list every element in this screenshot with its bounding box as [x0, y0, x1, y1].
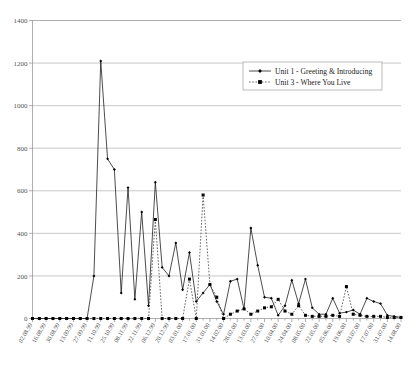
data-point	[154, 181, 157, 184]
data-point	[99, 59, 102, 62]
data-point	[290, 313, 293, 316]
series-line-1	[33, 61, 402, 319]
data-point	[72, 317, 75, 320]
data-point	[393, 316, 396, 319]
data-point	[45, 317, 48, 320]
legend-label-1[interactable]: Unit 1 - Greeting & Introducing	[275, 67, 372, 76]
x-axis-labels: 02.08.9916.08.9930.08.9913.09.9927.09.99…	[16, 322, 401, 344]
data-point	[208, 283, 211, 286]
data-point	[270, 305, 273, 308]
data-point	[345, 311, 348, 314]
data-point	[92, 317, 95, 320]
series-line-2	[33, 195, 402, 318]
data-point	[243, 307, 246, 310]
data-point	[86, 317, 89, 320]
data-point	[365, 297, 368, 300]
data-point	[249, 313, 252, 316]
data-point	[249, 227, 252, 230]
data-point	[304, 278, 307, 281]
y-tick-label: 200	[17, 273, 28, 281]
data-point	[318, 315, 321, 318]
data-point	[331, 297, 334, 300]
data-point	[359, 314, 362, 317]
data-point	[51, 317, 54, 320]
data-point	[127, 317, 130, 320]
gridlines	[33, 21, 402, 276]
data-point	[195, 317, 198, 320]
data-point	[311, 315, 314, 318]
series-group	[31, 59, 403, 320]
data-point	[140, 317, 143, 320]
data-point	[236, 310, 239, 313]
chart-legend[interactable]: Unit 1 - Greeting & IntroducingUnit 3 - …	[243, 62, 382, 90]
data-point	[338, 315, 341, 318]
data-point	[147, 317, 150, 320]
data-point	[120, 317, 123, 320]
data-point	[202, 194, 205, 197]
data-point	[181, 317, 184, 320]
chart-container: 0200400600800100012001400 02.08.9916.08.…	[0, 0, 416, 370]
y-tick-label: 1000	[14, 102, 29, 110]
data-point	[297, 304, 300, 307]
data-point	[79, 317, 82, 320]
data-point	[290, 279, 293, 282]
data-point	[379, 315, 382, 318]
data-point	[352, 313, 355, 316]
y-tick-label: 400	[17, 230, 28, 238]
y-tick-label: 1400	[14, 17, 29, 25]
data-point	[365, 315, 368, 318]
legend-marker-2	[258, 80, 262, 84]
data-point	[236, 278, 239, 281]
data-point	[263, 306, 266, 309]
data-point	[113, 317, 116, 320]
data-point	[181, 288, 184, 291]
data-point	[174, 241, 177, 244]
data-point	[222, 317, 225, 320]
y-tick-label: 600	[17, 187, 28, 195]
y-tick-label: 1200	[14, 60, 29, 68]
y-axis-ticks: 0200400600800100012001400	[14, 17, 33, 323]
data-point	[120, 292, 123, 295]
data-point	[167, 317, 170, 320]
data-point	[256, 310, 259, 313]
data-point	[154, 218, 157, 221]
data-point	[127, 186, 130, 189]
data-point	[38, 317, 41, 320]
data-point	[256, 264, 259, 267]
data-point	[188, 251, 191, 254]
data-point	[188, 278, 191, 281]
data-point	[215, 296, 218, 299]
data-point	[270, 297, 273, 300]
line-chart: 0200400600800100012001400 02.08.9916.08.…	[0, 0, 416, 370]
data-point	[65, 317, 68, 320]
data-point	[31, 317, 34, 320]
data-point	[400, 316, 403, 319]
data-point	[386, 316, 389, 319]
data-point	[140, 211, 143, 214]
data-point	[58, 317, 61, 320]
data-point	[263, 296, 266, 299]
data-point	[372, 300, 375, 303]
data-point	[92, 274, 95, 277]
y-tick-label: 800	[17, 145, 28, 153]
data-point	[304, 314, 307, 317]
data-point	[331, 314, 334, 317]
data-point	[174, 317, 177, 320]
legend-label-2[interactable]: Unit 3 - Where You Live	[275, 78, 351, 87]
data-point	[229, 313, 232, 316]
data-point	[372, 315, 375, 318]
data-point	[229, 280, 232, 283]
data-point	[133, 298, 136, 301]
data-point	[277, 298, 280, 301]
data-point	[99, 317, 102, 320]
data-point	[345, 285, 348, 288]
data-point	[161, 317, 164, 320]
data-point	[283, 310, 286, 313]
data-point	[133, 317, 136, 320]
data-point	[324, 315, 327, 318]
data-point	[106, 317, 109, 320]
